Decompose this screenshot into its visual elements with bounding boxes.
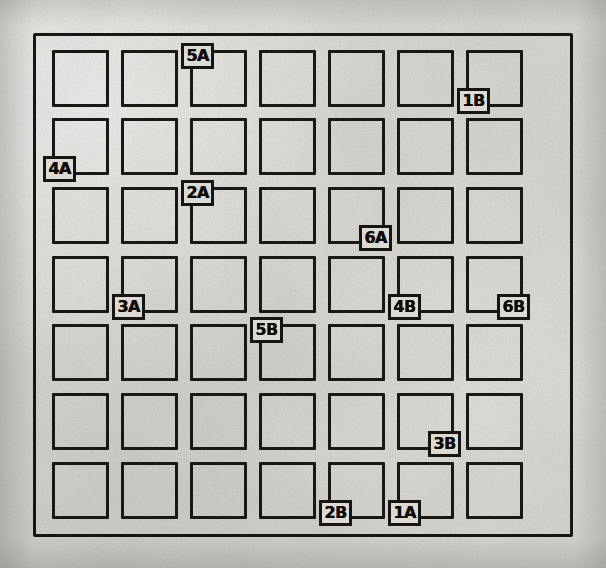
grid-cell[interactable] bbox=[52, 324, 109, 381]
cell-label-chip: 3B bbox=[428, 431, 461, 457]
grid-cell[interactable] bbox=[121, 118, 178, 175]
grid-cell[interactable] bbox=[259, 393, 316, 450]
grid-cell[interactable] bbox=[52, 50, 109, 107]
grid-cell[interactable] bbox=[328, 256, 385, 313]
grid-cell[interactable] bbox=[52, 393, 109, 450]
grid-cell[interactable] bbox=[328, 324, 385, 381]
cell-label-chip: 6A bbox=[359, 225, 392, 251]
grid-cell[interactable] bbox=[190, 324, 247, 381]
grid-cell[interactable] bbox=[466, 393, 523, 450]
cell-label-chip: 1B bbox=[457, 88, 490, 114]
cell-label-chip: 2A bbox=[181, 180, 214, 206]
grid-cell[interactable] bbox=[259, 50, 316, 107]
grid-cell[interactable] bbox=[397, 118, 454, 175]
cell-label-chip: 5A bbox=[181, 43, 214, 69]
grid-cell[interactable] bbox=[121, 393, 178, 450]
cell-label-chip: 2B bbox=[319, 500, 352, 526]
grid-cell[interactable] bbox=[259, 187, 316, 244]
grid-cell[interactable] bbox=[328, 393, 385, 450]
grid-cell[interactable] bbox=[259, 462, 316, 519]
grid-cell[interactable] bbox=[190, 393, 247, 450]
grid-cell[interactable] bbox=[397, 187, 454, 244]
grid-cell[interactable] bbox=[190, 462, 247, 519]
grid-cell[interactable] bbox=[121, 187, 178, 244]
grid-cell[interactable] bbox=[466, 462, 523, 519]
cell-label-chip: 4A bbox=[43, 156, 76, 182]
grid-cell[interactable] bbox=[466, 118, 523, 175]
cell-label-chip: 5B bbox=[250, 317, 283, 343]
grid-cell[interactable] bbox=[121, 50, 178, 107]
grid-cell[interactable] bbox=[466, 324, 523, 381]
cell-grid: 5A1B4A2A6A3A4B6B5B3B2B1A bbox=[0, 0, 606, 568]
cell-label-chip: 4B bbox=[388, 294, 421, 320]
grid-cell[interactable] bbox=[328, 118, 385, 175]
grid-cell[interactable] bbox=[328, 50, 385, 107]
scanned-worksheet-image: 5A1B4A2A6A3A4B6B5B3B2B1A bbox=[0, 0, 606, 568]
grid-cell[interactable] bbox=[397, 50, 454, 107]
grid-cell[interactable] bbox=[259, 118, 316, 175]
grid-cell[interactable] bbox=[121, 324, 178, 381]
grid-cell[interactable] bbox=[121, 462, 178, 519]
cell-label-chip: 1A bbox=[388, 500, 421, 526]
grid-cell[interactable] bbox=[190, 256, 247, 313]
grid-cell[interactable] bbox=[52, 256, 109, 313]
grid-cell[interactable] bbox=[52, 187, 109, 244]
grid-cell[interactable] bbox=[259, 256, 316, 313]
grid-cell[interactable] bbox=[52, 462, 109, 519]
grid-cell[interactable] bbox=[190, 118, 247, 175]
grid-cell[interactable] bbox=[466, 187, 523, 244]
cell-label-chip: 6B bbox=[497, 294, 530, 320]
cell-label-chip: 3A bbox=[112, 294, 145, 320]
grid-cell[interactable] bbox=[397, 324, 454, 381]
